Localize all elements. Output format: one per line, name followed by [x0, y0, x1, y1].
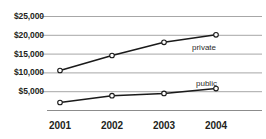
y-axis-tick-label: $25,000	[0, 11, 44, 21]
x-axis-tick-label: 2002	[92, 120, 132, 131]
series-label-private: private	[192, 43, 216, 52]
series-label-public: public	[196, 79, 217, 88]
data-point-private-2004	[214, 33, 219, 38]
data-point-private-2003	[162, 40, 167, 45]
y-axis-tick-label: $5,000	[0, 86, 44, 96]
y-axis-tick-label: $20,000	[0, 30, 44, 40]
y-axis-tick-label: $15,000	[0, 49, 44, 59]
series-line-private	[60, 35, 216, 71]
x-axis-tick-label: 2003	[144, 120, 184, 131]
data-point-private-2001	[58, 68, 63, 73]
data-point-public-2002	[110, 93, 115, 98]
x-axis-tick-label: 2004	[196, 120, 236, 131]
series-line-public	[60, 89, 216, 103]
data-point-private-2002	[110, 53, 115, 58]
line-chart: $25,000 $20,000 $15,000 $10,000 $5,000 2…	[0, 0, 266, 139]
y-axis-tick-label: $10,000	[0, 67, 44, 77]
data-point-public-2003	[162, 91, 167, 96]
x-axis-tick-label: 2001	[40, 120, 80, 131]
data-point-public-2001	[58, 100, 63, 105]
